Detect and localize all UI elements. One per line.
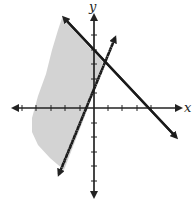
x-axis-label: x — [184, 100, 192, 115]
y-axis-label: y — [88, 0, 97, 14]
coordinate-plane: y x — [0, 0, 194, 200]
